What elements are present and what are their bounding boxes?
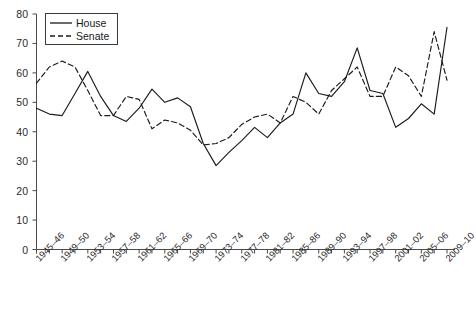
legend-swatch-house-icon <box>49 16 73 30</box>
legend-swatch-senate-icon <box>49 29 73 43</box>
legend-item-senate: Senate <box>49 29 117 43</box>
series-line-senate <box>37 32 448 145</box>
y-tick-label: 70 <box>4 38 28 48</box>
y-tick-label: 20 <box>4 186 28 196</box>
y-tick-marks <box>33 14 37 250</box>
legend-label-senate: Senate <box>76 29 109 43</box>
y-tick-label: 80 <box>4 9 28 19</box>
y-tick-label: 40 <box>4 127 28 137</box>
series-line-house <box>37 27 448 165</box>
y-tick-label: 60 <box>4 68 28 78</box>
y-tick-label: 0 <box>4 245 28 255</box>
y-tick-label: 10 <box>4 215 28 225</box>
y-tick-label: 30 <box>4 156 28 166</box>
legend-item-house: House <box>49 16 117 30</box>
legend-label-house: House <box>76 16 106 30</box>
chart-legend: House Senate <box>45 13 118 45</box>
y-tick-label: 50 <box>4 97 28 107</box>
